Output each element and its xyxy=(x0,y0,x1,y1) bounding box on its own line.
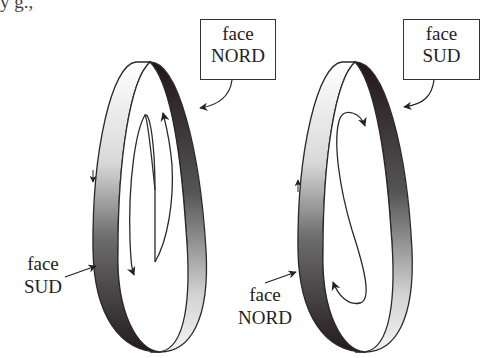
left-box-line2: NORD xyxy=(201,45,275,67)
left-side-line2: SUD xyxy=(18,275,68,298)
right-box-leader-arrow-icon xyxy=(404,80,434,107)
right-side-leader-arrow-icon xyxy=(265,272,296,283)
left-ring xyxy=(93,62,207,352)
diagram-canvas: y g., xyxy=(0,0,498,358)
right-box-line1: face xyxy=(404,23,479,45)
left-box-leader-arrow-icon xyxy=(200,80,232,108)
right-ring xyxy=(298,62,412,352)
left-box-label: face NORD xyxy=(200,19,276,80)
right-side-label: face NORD xyxy=(232,283,298,329)
right-box-line2: SUD xyxy=(404,45,479,67)
right-side-line2: NORD xyxy=(232,306,298,329)
left-side-leader-arrow-icon xyxy=(65,266,96,277)
caption-fragment: y g., xyxy=(0,0,33,13)
left-side-label: face SUD xyxy=(18,252,68,298)
right-side-line1: face xyxy=(232,283,298,306)
left-box-line1: face xyxy=(201,23,275,45)
left-side-line1: face xyxy=(18,252,68,275)
right-box-label: face SUD xyxy=(403,19,480,80)
